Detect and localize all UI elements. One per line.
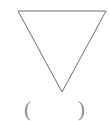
triangle-outline — [18, 11, 106, 92]
figure-container: ( ) — [0, 0, 109, 121]
open-paren: ( — [24, 98, 31, 120]
close-paren: ) — [78, 98, 85, 120]
answer-blank-field[interactable] — [31, 109, 78, 110]
answer-blank[interactable]: ( ) — [0, 97, 109, 121]
